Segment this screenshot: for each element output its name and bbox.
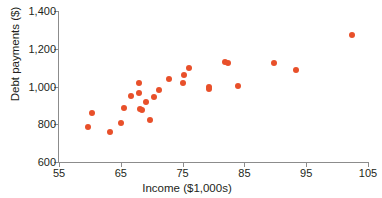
- scatter-point: [118, 120, 124, 126]
- plot-area: [59, 11, 368, 162]
- scatter-point: [121, 105, 127, 111]
- x-tick-label: 55: [39, 168, 79, 179]
- x-tick-label: 95: [286, 168, 326, 179]
- y-axis-title: Debt payments ($): [9, 0, 21, 116]
- scatter-point: [147, 117, 153, 123]
- scatter-point: [85, 124, 91, 130]
- x-axis-title: Income ($1,000s): [0, 182, 374, 194]
- scatter-point: [271, 60, 277, 66]
- chart-title: [86, 0, 316, 2]
- scatter-point: [166, 76, 172, 82]
- scatter-point: [225, 60, 231, 66]
- scatter-point: [128, 93, 134, 99]
- scatter-point: [139, 107, 145, 113]
- x-tick-label: 65: [101, 168, 141, 179]
- scatter-point: [89, 110, 95, 116]
- x-axis-line: [59, 162, 369, 163]
- y-tick-label: 800: [12, 119, 56, 130]
- scatter-point: [136, 80, 142, 86]
- x-tick-label: 105: [348, 168, 382, 179]
- y-tick-label: 600: [12, 157, 56, 168]
- x-tick-label: 75: [163, 168, 203, 179]
- scatter-point: [181, 72, 187, 78]
- scatter-point: [180, 80, 186, 86]
- scatter-point: [107, 129, 113, 135]
- scatter-point: [156, 87, 162, 93]
- scatter-point: [206, 86, 212, 92]
- scatter-point: [143, 99, 149, 105]
- scatter-point: [293, 67, 299, 73]
- x-tick-label: 85: [224, 168, 264, 179]
